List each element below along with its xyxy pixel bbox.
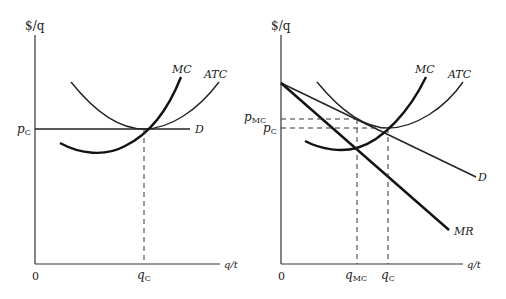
right-origin-label: 0 bbox=[278, 270, 285, 283]
right-d-label: D bbox=[477, 171, 487, 184]
left-y-axis-label: $/q bbox=[25, 19, 45, 33]
right-demand-curve bbox=[281, 83, 476, 177]
right-qmc-label: qMC bbox=[345, 268, 367, 283]
right-qc-label: qC bbox=[381, 268, 395, 283]
left-d-label: D bbox=[194, 123, 204, 136]
right-pc-label: pC bbox=[263, 121, 277, 136]
right-y-axis-label: $/q bbox=[271, 19, 291, 33]
left-mc-curve bbox=[60, 77, 181, 153]
right-mc-label: MC bbox=[414, 63, 435, 76]
right-x-axis-label: q/t bbox=[467, 259, 482, 270]
right-mr-curve bbox=[281, 83, 449, 230]
left-atc-label: ATC bbox=[203, 68, 228, 81]
left-x-axis-label: q/t bbox=[224, 259, 239, 270]
right-mc-curve bbox=[305, 77, 426, 150]
right-panel: $/q q/t 0 MC ATC D MR pMC pC qMC qC bbox=[244, 19, 487, 283]
left-atc-curve bbox=[71, 82, 219, 129]
right-atc-label: ATC bbox=[447, 68, 472, 81]
economics-diagram: $/q q/t 0 MC ATC D pC qC $/q q/t 0 bbox=[0, 0, 506, 299]
left-mc-label: MC bbox=[171, 63, 192, 76]
right-atc-curve bbox=[317, 82, 463, 128]
left-qc-label: qC bbox=[137, 268, 151, 283]
right-mr-label: MR bbox=[453, 225, 474, 238]
left-panel: $/q q/t 0 MC ATC D pC qC bbox=[17, 19, 239, 283]
left-origin-label: 0 bbox=[32, 270, 39, 283]
left-pc-label: pC bbox=[17, 122, 31, 137]
